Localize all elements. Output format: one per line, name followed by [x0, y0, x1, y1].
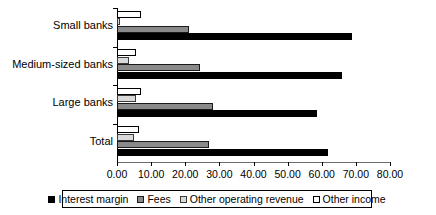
bar-total-other-operating-revenue: [117, 134, 134, 141]
legend-item-fees: Fees: [137, 193, 170, 205]
category-label-large-banks: Large banks: [1, 96, 113, 108]
x-axis-tick-label: 80.00: [368, 168, 412, 181]
chart-legend: Interest margin Fees Other operating rev…: [62, 190, 372, 208]
bar-medium-sized-banks-other-income: [117, 49, 136, 56]
bar-large-banks-other-operating-revenue: [117, 95, 136, 102]
x-axis-tick: [356, 162, 357, 166]
bar-medium-sized-banks-interest-margin: [117, 72, 342, 79]
bar-total-fees: [117, 141, 209, 148]
category-axis-labels: Small banks Medium-sized banks Large ban…: [0, 8, 113, 162]
category-tick: [113, 85, 117, 86]
legend-item-interest-margin: Interest margin: [48, 193, 128, 205]
legend-item-other-operating-revenue: Other operating revenue: [180, 193, 304, 205]
bar-small-banks-other-operating-revenue: [117, 18, 120, 25]
legend-swatch-other-operating-revenue-icon: [180, 196, 187, 203]
category-label-small-banks: Small banks: [1, 19, 113, 31]
legend-swatch-interest-margin-icon: [48, 196, 55, 203]
bar-large-banks-other-income: [117, 88, 141, 95]
x-axis-tick: [254, 162, 255, 166]
x-axis-tick: [151, 162, 152, 166]
bar-small-banks-interest-margin: [117, 33, 352, 40]
x-axis-tick: [390, 162, 391, 166]
bar-medium-sized-banks-other-operating-revenue: [117, 57, 129, 64]
category-tick: [113, 124, 117, 125]
bar-group-large-banks: [117, 85, 390, 124]
bar-small-banks-other-income: [117, 11, 141, 18]
legend-item-other-income: Other income: [313, 193, 386, 205]
legend-label-fees: Fees: [147, 193, 170, 205]
bar-total-interest-margin: [117, 149, 328, 156]
bar-small-banks-fees: [117, 26, 189, 33]
plot-area: 0.0010.0020.0030.0040.0050.0060.0070.008…: [117, 8, 390, 162]
legend-swatch-other-income-icon: [313, 196, 320, 203]
bar-group-small-banks: [117, 8, 390, 47]
category-label-medium-sized-banks: Medium-sized banks: [1, 58, 113, 70]
category-tick: [113, 47, 117, 48]
x-axis-tick: [322, 162, 323, 166]
bar-large-banks-interest-margin: [117, 110, 317, 117]
legend-label-other-income: Other income: [323, 193, 386, 205]
bar-total-other-income: [117, 126, 139, 133]
legend-swatch-fees-icon: [137, 196, 144, 203]
bar-group-medium-sized-banks: [117, 47, 390, 86]
legend-label-interest-margin: Interest margin: [58, 193, 128, 205]
legend-label-other-operating-revenue: Other operating revenue: [190, 193, 304, 205]
bar-medium-sized-banks-fees: [117, 64, 200, 71]
x-axis-tick: [185, 162, 186, 166]
x-axis-tick: [117, 162, 118, 166]
category-label-total: Total: [1, 135, 113, 147]
x-axis-tick: [288, 162, 289, 166]
bar-large-banks-fees: [117, 103, 213, 110]
bar-chart: Small banks Medium-sized banks Large ban…: [0, 0, 436, 215]
bar-group-total: [117, 124, 390, 163]
category-tick: [113, 8, 117, 9]
x-axis-tick: [219, 162, 220, 166]
